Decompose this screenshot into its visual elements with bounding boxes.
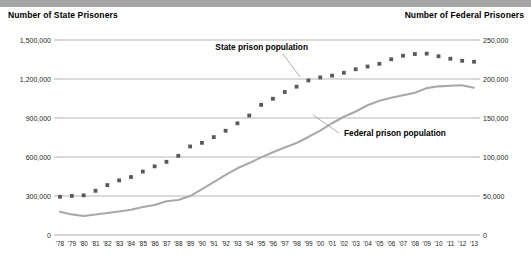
annotation-state-prison-population: State prison population (215, 42, 308, 52)
x-tick-label: '01 (328, 240, 337, 247)
right-tick-label: 250,000 (483, 37, 508, 44)
x-tick-label: '09 (423, 240, 432, 247)
x-tick-label: '99 (304, 240, 313, 247)
left-axis-tick-labels: 0300,000600,000900,0001,200,0001,500,000 (20, 37, 51, 239)
x-tick-label: '03 (352, 240, 361, 247)
prison-population-chart: 0300,000600,000900,0001,200,0001,500,000… (0, 0, 531, 255)
x-tick-label: '05 (375, 240, 384, 247)
right-tick-label: 200,000 (483, 76, 508, 83)
x-tick-label: '00 (316, 240, 325, 247)
left-tick-label: 1,200,000 (20, 76, 51, 83)
x-tick-label: '08 (411, 240, 420, 247)
right-tick-label: 0 (483, 232, 487, 239)
x-tick-label: '89 (186, 240, 195, 247)
x-tick-label: '02 (340, 240, 349, 247)
right-axis-tick-labels: 050,000100,000150,000200,000250,000 (483, 37, 508, 239)
left-tick-label: 900,000 (26, 115, 51, 122)
x-tick-label: '11 (446, 240, 454, 247)
x-tick-label: '92 (221, 240, 230, 247)
x-tick-label: '12 (458, 240, 467, 247)
x-tick-label: '85 (139, 240, 148, 247)
x-tick-label: '78 (56, 240, 65, 247)
x-tick-label: '86 (150, 240, 159, 247)
right-tick-label: 150,000 (483, 115, 508, 122)
right-tick-label: 100,000 (483, 154, 508, 161)
series-state-prison-population (58, 52, 476, 199)
x-tick-label: '13 (470, 240, 479, 247)
x-tick-label: '88 (174, 240, 183, 247)
series-federal-prison-population (60, 85, 474, 216)
left-tick-label: 600,000 (26, 154, 51, 161)
x-tick-label: '82 (103, 240, 112, 247)
x-tick-label: '80 (79, 240, 88, 247)
left-tick-label: 300,000 (26, 193, 51, 200)
x-axis-tick-labels: '78'79'80'81'82'83'84'85'86'87'88'89'90'… (56, 240, 479, 247)
x-tick-label: '91 (210, 240, 219, 247)
x-tick-label: '83 (115, 240, 124, 247)
x-tick-label: '10 (434, 240, 443, 247)
annotation-federal-prison-population: Federal prison population (344, 128, 446, 138)
x-tick-label: '06 (387, 240, 396, 247)
left-tick-label: 1,500,000 (20, 37, 51, 44)
x-tick-label: '98 (292, 240, 301, 247)
x-tick-label: '93 (233, 240, 242, 247)
x-tick-label: '95 (257, 240, 266, 247)
x-tick-label: '87 (162, 240, 171, 247)
left-tick-label: 0 (47, 232, 51, 239)
right-tick-label: 50,000 (483, 193, 505, 200)
x-tick-label: '94 (245, 240, 254, 247)
x-tick-label: '81 (91, 240, 100, 247)
x-tick-label: '97 (281, 240, 290, 247)
x-tick-label: '90 (198, 240, 207, 247)
x-tick-label: '04 (363, 240, 372, 247)
x-tick-label: '07 (399, 240, 408, 247)
x-tick-label: '79 (68, 240, 77, 247)
x-tick-label: '84 (127, 240, 136, 247)
x-tick-label: '96 (269, 240, 278, 247)
